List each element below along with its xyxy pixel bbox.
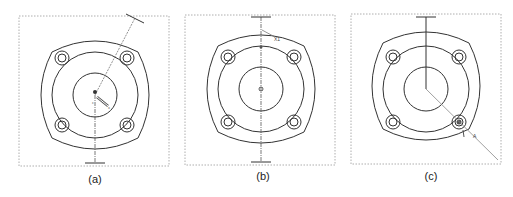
caption-a: (a) bbox=[75, 173, 115, 185]
panel-c: A (c) bbox=[340, 0, 513, 197]
svg-text:x: x bbox=[108, 105, 110, 110]
flange-drawing-a: x x bbox=[0, 0, 170, 197]
caption-b: (b) bbox=[243, 170, 283, 182]
svg-text:x: x bbox=[92, 101, 94, 105]
marker-label-c: A bbox=[473, 133, 477, 139]
flange-drawing-c: A bbox=[340, 0, 513, 197]
panel-a: x x (a) bbox=[0, 0, 170, 197]
panel-b: X1 (b) bbox=[170, 0, 340, 197]
flange-drawing-b: X1 bbox=[170, 0, 340, 197]
caption-c: (c) bbox=[411, 170, 451, 182]
marker-label-b: X1 bbox=[274, 36, 280, 42]
